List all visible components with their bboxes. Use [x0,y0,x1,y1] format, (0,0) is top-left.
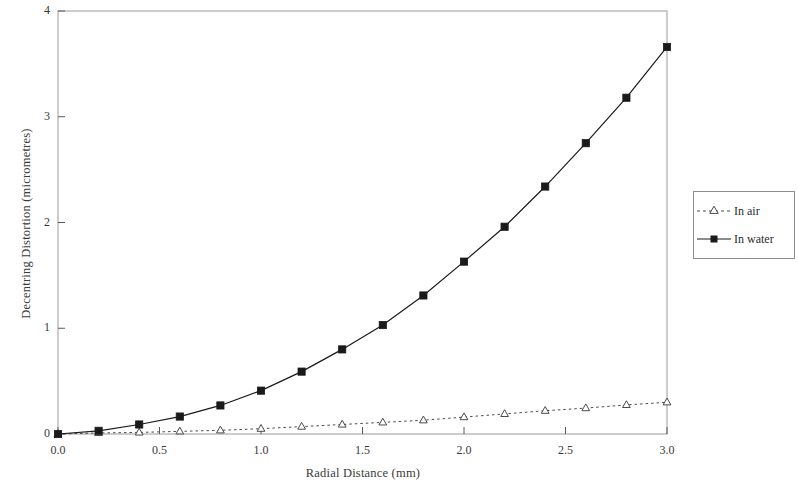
data-point-marker [257,387,264,394]
series-in-water [54,43,670,437]
y-axis-ticks [58,11,65,434]
data-point-marker [460,413,468,420]
data-point-marker [135,428,143,435]
data-point-marker [663,43,670,50]
data-point-marker [582,404,590,411]
data-point-marker [501,410,509,417]
data-point-marker [339,346,346,353]
data-point-marker [541,407,549,414]
y-tick-label: 1 [24,320,50,335]
series-line [58,47,667,434]
data-point-marker [379,418,387,425]
data-point-marker [257,425,265,432]
legend-label-in-air: In air [734,204,760,219]
legend: In air In water [693,191,795,259]
data-point-marker [623,94,630,101]
legend-item-in-air: In air [694,200,794,222]
x-axis-ticks [58,427,667,434]
data-point-marker [460,258,467,265]
data-point-marker [95,427,102,434]
data-point-marker [298,422,306,429]
data-point-marker [338,420,346,427]
chart-figure: Decentring Distortion (micrometres) Radi… [0,0,798,489]
y-tick-label: 0 [24,426,50,441]
data-point-marker [663,398,671,405]
plot-area [0,0,798,489]
data-point-marker [217,426,225,433]
legend-key-in-air [694,201,734,221]
x-tick-label: 3.0 [645,443,689,458]
data-point-marker [420,292,427,299]
x-tick-label: 2.5 [544,443,588,458]
y-tick-label: 3 [24,109,50,124]
legend-item-in-water: In water [694,228,794,250]
data-point-marker [623,401,631,408]
data-point-marker [136,421,143,428]
data-point-marker [379,321,386,328]
x-tick-label: 0.0 [36,443,80,458]
legend-key-in-water [694,229,734,249]
x-tick-label: 1.5 [341,443,385,458]
x-tick-label: 0.5 [138,443,182,458]
data-point-marker [420,416,428,423]
y-tick-label: 4 [24,3,50,18]
data-point-marker [582,140,589,147]
legend-label-in-water: In water [734,232,774,247]
data-point-marker [176,413,183,420]
data-point-marker [217,402,224,409]
data-point-marker [298,368,305,375]
data-point-marker [54,430,61,437]
data-point-marker [176,427,184,434]
data-point-marker [542,183,549,190]
x-tick-label: 1.0 [239,443,283,458]
data-point-marker [501,223,508,230]
x-axis-title: Radial Distance (mm) [58,466,668,481]
x-tick-label: 2.0 [442,443,486,458]
y-tick-label: 2 [24,215,50,230]
plot-frame [58,11,667,434]
